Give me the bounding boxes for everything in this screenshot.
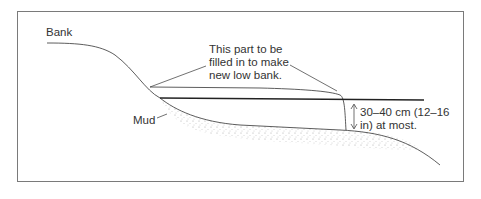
leader-line-fill-left [150,66,206,87]
depth-arrow-icon [351,104,357,129]
depth-note-line1: 30–40 cm (12–16 [360,106,450,119]
bank-label: Bank [46,26,72,39]
leader-line-mud [157,114,167,118]
water-line [160,98,424,100]
depth-note-line2: in) at most. [360,119,417,132]
fill-note-line2: filled in to make [209,56,289,69]
fill-note-line1: This part to be [209,43,283,56]
mud-label: Mud [133,114,155,127]
fill-note-line3: new low bank. [209,69,282,82]
leader-line-fill-right [290,65,337,91]
fill-top-line [150,87,346,130]
